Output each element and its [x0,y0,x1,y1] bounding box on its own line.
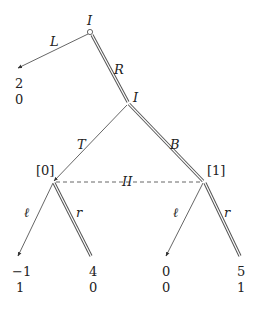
edge-r-left [54,183,91,256]
edge-T [54,105,127,181]
root-node [87,29,92,34]
root-player-label: I [86,13,93,28]
node-player-label: I [132,90,139,105]
info-set-label: II [121,174,133,189]
edge-label-r-right: r [224,205,231,220]
payoff-leaf4-p1: 5 [237,264,245,279]
payoff-leaf2-p1: 4 [89,264,97,279]
payoff-leaf3-p2: 0 [162,280,170,295]
edge-B [129,104,203,181]
edge-label-L: L [49,34,59,49]
payoff-leaf3-p1: 0 [162,264,170,279]
edge-label-l-left: ℓ [24,205,30,220]
payoff-leaf0-p1: 2 [15,76,23,91]
payoff-leaf1-p1: −1 [12,264,31,279]
payoff-leaf0-p2: 0 [15,92,23,107]
belief-label-1: [1] [207,163,225,178]
edge-label-l-right: ℓ [173,205,179,220]
edge-label-B: B [169,137,180,152]
edge-l-right [166,183,203,256]
edge-label-R: R [113,62,124,77]
payoff-leaf1-p2: 1 [16,280,24,295]
game-tree: I L R I T B [0] [1] II ℓ r ℓ r 2 0 −1 1 … [0,0,258,311]
edge-label-r-left: r [76,205,83,220]
edge-label-T: T [77,137,87,152]
payoff-leaf4-p2: 1 [237,280,245,295]
belief-label-0: [0] [36,163,54,178]
edge-r-right [205,183,240,256]
payoff-leaf2-p2: 0 [89,280,97,295]
